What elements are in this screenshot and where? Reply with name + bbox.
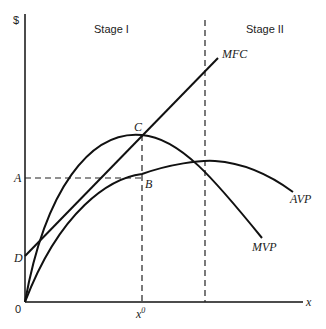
stage-2-label: Stage II	[246, 23, 284, 35]
x-axis-label: x	[305, 295, 312, 309]
point-b-label: B	[145, 177, 153, 191]
avp-curve	[25, 161, 293, 302]
stage-1-label: Stage I	[94, 23, 129, 35]
mvp-label: MVP	[251, 240, 277, 254]
mfc-label: MFC	[221, 47, 248, 61]
production-stages-diagram: $ x 0 Stage I Stage II MFC AVP MVP C B A…	[0, 0, 326, 329]
point-d-label: D	[13, 251, 23, 265]
point-c-label: C	[134, 120, 143, 134]
x0-label: x0	[135, 306, 145, 321]
point-a-label: A	[13, 171, 22, 185]
origin-label: 0	[15, 303, 21, 315]
y-axis-label: $	[13, 14, 19, 26]
x0-superscript: 0	[141, 306, 145, 315]
avp-label: AVP	[289, 192, 312, 206]
